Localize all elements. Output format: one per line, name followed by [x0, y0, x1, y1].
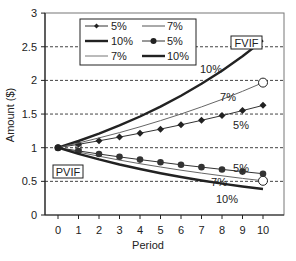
pv10-label: 10% [216, 193, 238, 205]
legend: 5% 10% 7% 7% 5% 10% [80, 19, 196, 65]
diamond-marker-icon [260, 102, 267, 109]
circle-marker-icon [260, 170, 267, 177]
y-axis-label: Amount ($) [4, 88, 16, 142]
fv10-label: 10% [200, 63, 222, 75]
legend-label-fv7: 7% [111, 50, 127, 62]
diamond-marker-icon [198, 117, 205, 124]
circle-marker-icon [137, 156, 144, 163]
x-tick-label: 8 [219, 224, 225, 236]
y-axis-ticks: 00.511.522.53 [22, 7, 45, 221]
legend-label-pv10: 10% [167, 50, 189, 62]
x-axis-ticks: 012345678910 [55, 215, 269, 236]
diamond-marker-icon [178, 121, 185, 128]
start-point-marker-icon [55, 144, 62, 151]
y-tick-label: 3 [31, 7, 37, 19]
circle-marker-icon [178, 161, 185, 168]
x-axis-label: Period [132, 239, 164, 251]
pvif-annotation: PVIF [53, 165, 83, 178]
open-circle-marker-icon [259, 78, 268, 87]
x-tick-label: 6 [178, 224, 184, 236]
y-tick-label: 2.5 [22, 41, 37, 53]
y-tick-label: 0 [31, 209, 37, 221]
pvif-label: PVIF [56, 166, 81, 178]
diamond-marker-icon [239, 107, 246, 114]
legend-label-pv5: 5% [167, 35, 183, 47]
x-tick-label: 10 [257, 224, 269, 236]
fvif-annotation: FVIF [231, 36, 262, 49]
diamond-marker-icon [157, 126, 164, 133]
x-tick-label: 4 [137, 224, 143, 236]
diamond-marker-icon [137, 130, 144, 137]
circle-marker-icon [219, 166, 226, 173]
x-tick-label: 0 [55, 224, 61, 236]
open-circle-marker-icon [259, 176, 268, 185]
chart: 00.511.522.53 012345678910 Period Amount… [0, 0, 296, 261]
circle-marker-icon [198, 164, 205, 171]
diamond-marker-icon [219, 112, 226, 119]
circle-marker-icon [116, 154, 123, 161]
legend-label-pv7: 7% [167, 20, 183, 32]
y-tick-label: 1.5 [22, 108, 37, 120]
fvif-label: FVIF [235, 37, 259, 49]
pv5-label: 5% [233, 162, 249, 174]
legend-label-fv10: 10% [111, 35, 133, 47]
pv7-label: 7% [211, 176, 227, 188]
circle-marker-icon [157, 159, 164, 166]
legend-label-fv5: 5% [111, 20, 127, 32]
circle-marker-icon [151, 38, 157, 44]
x-tick-label: 1 [75, 224, 81, 236]
y-tick-label: 2 [31, 74, 37, 86]
x-tick-label: 7 [198, 224, 204, 236]
x-tick-label: 9 [239, 224, 245, 236]
fv5-label: 5% [233, 119, 249, 131]
fv7-label: 7% [220, 91, 236, 103]
y-tick-label: 0.5 [22, 175, 37, 187]
x-tick-label: 3 [116, 224, 122, 236]
diamond-marker-icon [116, 134, 123, 141]
circle-marker-icon [96, 151, 103, 158]
y-tick-label: 1 [31, 142, 37, 154]
x-tick-label: 5 [157, 224, 163, 236]
x-tick-label: 2 [96, 224, 102, 236]
